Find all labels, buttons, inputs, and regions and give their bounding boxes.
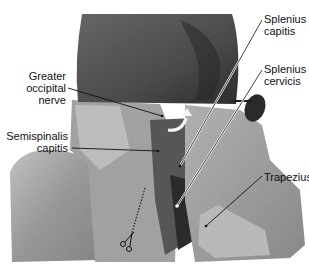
anatomy-figure: Greater occipital nerve Semispinalis cap… (0, 0, 309, 270)
label-line: Splenius (264, 13, 306, 25)
label-line: nerve (4, 94, 66, 106)
label-line: cervicis (264, 75, 306, 87)
label-line: Trapezius (264, 171, 309, 183)
label-line: Greater (4, 70, 66, 82)
label-line: Splenius (264, 63, 306, 75)
label-trapezius: Trapezius (264, 171, 309, 183)
label-line: capitis (264, 25, 306, 37)
label-semispinalis-capitis: Semispinalis capitis (0, 130, 68, 154)
label-line: Semispinalis (0, 130, 68, 142)
label-greater-occipital-nerve: Greater occipital nerve (4, 70, 66, 106)
label-splenius-capitis: Splenius capitis (264, 13, 306, 37)
label-splenius-cervicis: Splenius cervicis (264, 63, 306, 87)
label-line: capitis (0, 142, 68, 154)
label-line: occipital (4, 82, 66, 94)
